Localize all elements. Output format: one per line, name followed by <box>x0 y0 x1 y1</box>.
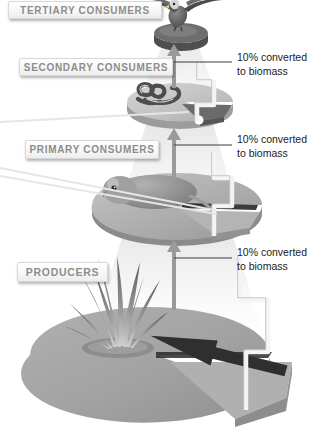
secondary-consumers-platform <box>127 83 233 129</box>
level-label-primary-consumers: PRIMARY CONSUMERS <box>25 140 159 159</box>
biomass-callout-line1: 10% converted <box>237 133 307 145</box>
biomass-callout-line1: 10% converted <box>237 246 307 258</box>
level-label-tertiary-consumers: TERTIARY CONSUMERS <box>8 1 162 19</box>
biomass-callout-line2: to biomass <box>237 65 307 79</box>
biomass-callout-secondary: 10% converted to biomass <box>237 133 307 160</box>
level-label-secondary-consumers: SECONDARY CONSUMERS <box>19 58 173 76</box>
biomass-callout-primary: 10% converted to biomass <box>237 246 307 273</box>
biomass-callout-line2: to biomass <box>237 260 307 274</box>
biomass-callout-line2: to biomass <box>237 147 307 161</box>
energy-pyramid-diagram: TERTIARY CONSUMERS SECONDARY CONSUMERS P… <box>0 0 322 427</box>
biomass-callout-tertiary: 10% converted to biomass <box>237 51 307 78</box>
level-label-producers: PRODUCERS <box>17 262 108 282</box>
biomass-callout-line1: 10% converted <box>237 51 307 63</box>
